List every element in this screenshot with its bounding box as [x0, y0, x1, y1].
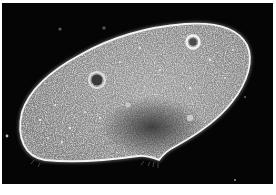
caption-text [2, 186, 274, 195]
debris-particle [58, 27, 61, 30]
debris-particle [6, 135, 9, 138]
debris-particle [244, 96, 246, 98]
debris-particle [102, 26, 106, 30]
paramecium-image [2, 3, 273, 184]
micrograph-frame [2, 3, 273, 184]
macronucleus-region [100, 97, 204, 157]
debris-particle [234, 179, 236, 181]
